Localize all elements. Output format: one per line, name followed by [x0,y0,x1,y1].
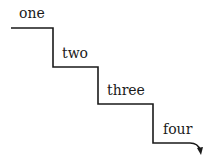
step-label-three: three [107,83,145,97]
step-label-one: one [19,6,45,20]
step-label-four: four [163,122,192,136]
staircase-line [0,0,211,163]
step-label-two: two [62,46,88,60]
staircase-diagram: one two three four [0,0,211,163]
arrow-down-icon [197,147,203,155]
